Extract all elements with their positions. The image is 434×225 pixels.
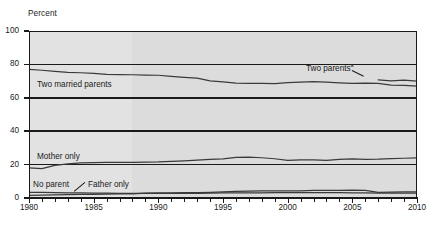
x-tick-1997 xyxy=(249,198,250,202)
plot-area xyxy=(29,31,417,198)
y-tick-label-0: 0 xyxy=(0,193,19,202)
series-line-mother-only xyxy=(29,157,417,169)
x-tick-2002 xyxy=(314,198,315,202)
series-line-two-parents xyxy=(378,80,417,81)
y-tick-label-60: 60 xyxy=(0,93,19,102)
y-tick-label-40: 40 xyxy=(0,126,19,135)
x-tick-2006 xyxy=(365,198,366,202)
x-tick-label-1980: 1980 xyxy=(20,203,38,212)
x-tick-label-2005: 2005 xyxy=(343,203,361,212)
x-tick-2007 xyxy=(378,198,379,202)
x-tick-2004 xyxy=(339,198,340,202)
y-axis-title: Percent xyxy=(28,9,57,18)
y-tick-mark-20 xyxy=(24,164,29,166)
x-tick-1993 xyxy=(197,198,198,202)
x-tick-1983 xyxy=(68,198,69,202)
y-tick-mark-100 xyxy=(24,30,29,32)
series-label-no-parent: No parent xyxy=(33,181,69,189)
y-tick-label-100: 100 xyxy=(0,26,19,35)
series-line-no-parent xyxy=(29,192,417,193)
y-tick-label-20: 20 xyxy=(0,160,19,169)
x-tick-1982 xyxy=(55,198,56,202)
x-tick-1991 xyxy=(171,198,172,202)
y-tick-mark-80 xyxy=(24,64,29,66)
x-tick-1981 xyxy=(42,198,43,202)
x-tick-1989 xyxy=(145,198,146,202)
series-label-mother-only: Mother only xyxy=(37,153,80,161)
x-tick-2001 xyxy=(301,198,302,202)
axis-spine-left xyxy=(29,31,30,198)
axis-spine-right xyxy=(416,31,417,198)
chart-figure: Percent 020406080100 1980198519901995200… xyxy=(0,0,434,225)
series-label-father-only: Father only xyxy=(88,181,129,189)
x-tick-2009 xyxy=(404,198,405,202)
x-tick-1994 xyxy=(210,198,211,202)
y-tick-mark-40 xyxy=(24,130,29,132)
x-tick-label-1995: 1995 xyxy=(214,203,232,212)
y-tick-mark-60 xyxy=(24,97,29,99)
x-tick-2003 xyxy=(326,198,327,202)
x-tick-1998 xyxy=(262,198,263,202)
x-tick-1999 xyxy=(275,198,276,202)
series-label-two-parents: Two parentsa xyxy=(306,65,354,73)
x-tick-label-1985: 1985 xyxy=(85,203,103,212)
x-tick-1987 xyxy=(120,198,121,202)
x-tick-1996 xyxy=(236,198,237,202)
x-tick-label-2010: 2010 xyxy=(408,203,426,212)
series-label-two-married-parents: Two married parents xyxy=(37,81,112,89)
x-tick-2008 xyxy=(391,198,392,202)
x-tick-1988 xyxy=(132,198,133,202)
x-tick-1986 xyxy=(107,198,108,202)
y-tick-label-80: 80 xyxy=(0,59,19,68)
x-tick-label-2000: 2000 xyxy=(279,203,297,212)
x-tick-1992 xyxy=(184,198,185,202)
series-lines xyxy=(29,31,417,198)
x-tick-1984 xyxy=(81,198,82,202)
x-tick-label-1990: 1990 xyxy=(149,203,167,212)
